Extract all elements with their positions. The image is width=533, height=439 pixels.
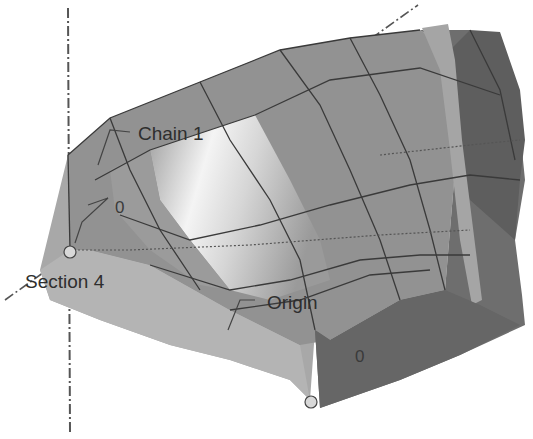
- chain-label[interactable]: Chain 1: [138, 124, 204, 143]
- origin-parameter-value: 0: [355, 348, 364, 365]
- section-label[interactable]: Section 4: [25, 272, 104, 291]
- origin-label[interactable]: Origin: [267, 293, 318, 312]
- section-point[interactable]: [64, 246, 76, 258]
- cad-viewport[interactable]: Chain 1 Section 4 Origin 0 0: [0, 0, 533, 439]
- section-parameter-value: 0: [115, 199, 124, 216]
- origin-point[interactable]: [305, 396, 317, 408]
